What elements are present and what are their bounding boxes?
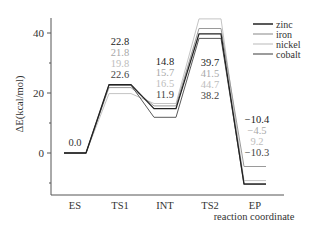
- energy-profile-chart: 02040ΔE(kcal/mol)ESTS1INTTS2EPreaction c…: [0, 0, 318, 227]
- label-es: 0.0: [68, 137, 81, 148]
- legend-label-cobalt: cobalt: [276, 49, 301, 60]
- x-tick-label-ts2: TS2: [201, 200, 219, 211]
- label-ep-iron: −4.5: [247, 125, 266, 136]
- x-tick-label-int: INT: [156, 200, 174, 211]
- series-lines: [64, 19, 266, 184]
- label-int-iron: 15.7: [156, 67, 174, 78]
- x-tick-label-ts1: TS1: [111, 200, 129, 211]
- label-int-cobalt: 11.9: [156, 89, 174, 100]
- label-ts1-nickel: 19.8: [111, 58, 129, 69]
- legend: zincironnickelcobalt: [253, 19, 301, 60]
- label-ts2-iron: 41.5: [201, 68, 219, 79]
- label-ep-nickel: 9.2: [250, 136, 263, 147]
- label-int-nickel: 16.5: [156, 78, 174, 89]
- x-axis-label: reaction coordinate: [214, 211, 295, 222]
- label-ep-cobalt: −10.3: [245, 147, 269, 158]
- label-ts1-iron: 21.8: [111, 47, 129, 58]
- label-ep-zinc: −10.4: [245, 114, 270, 125]
- label-ts2-cobalt: 38.2: [201, 90, 219, 101]
- label-ts2-zinc: 39.7: [201, 57, 219, 68]
- x-tick-label-ep: EP: [249, 200, 261, 211]
- y-tick-label: 0: [39, 147, 45, 159]
- label-int-zinc: 14.8: [156, 56, 174, 67]
- y-tick-label: 20: [33, 87, 45, 99]
- y-tick-label: 40: [33, 27, 45, 39]
- x-tick-label-es: ES: [69, 200, 81, 211]
- label-ts1-cobalt: 22.6: [111, 69, 129, 80]
- y-axis-label: ΔE(kcal/mol): [14, 75, 26, 132]
- label-ts1-zinc: 22.8: [111, 36, 129, 47]
- label-ts2-nickel: 44.7: [201, 79, 219, 90]
